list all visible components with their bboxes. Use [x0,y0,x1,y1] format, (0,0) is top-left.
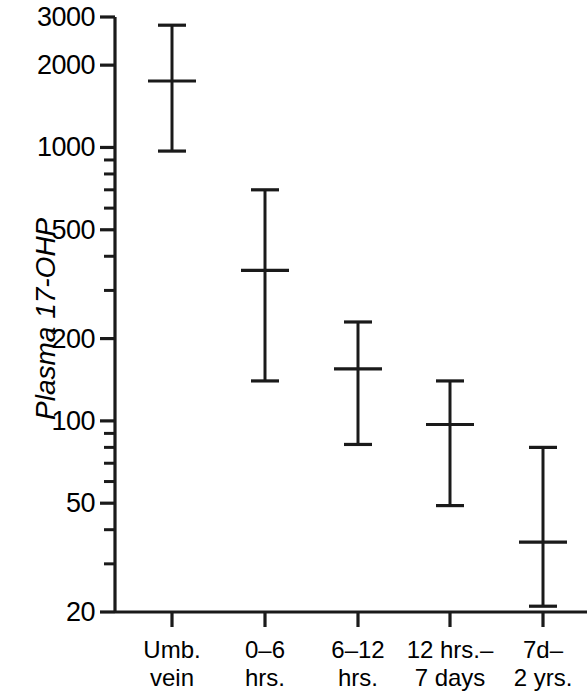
error-bar-point [241,190,289,381]
error-bar-point [148,25,196,151]
y-axis-tick-label: 1000 [37,134,95,161]
error-bar-point [334,322,382,444]
y-axis-tick-label: 50 [66,490,95,517]
y-axis-tick-label: 20 [66,599,95,626]
error-bar-point [426,381,474,506]
x-axis-tick-label-line2: 2 yrs. [483,664,587,692]
y-axis-tick-label: 3000 [37,4,95,31]
x-axis-tick-label: 7d–2 yrs. [483,636,587,693]
y-axis-tick-label: 100 [51,408,95,435]
x-axis-tick-label-line1: 0–6 [245,636,285,663]
y-axis-title: Plasma 17-OHP [30,218,62,420]
error-bar-point [519,447,567,606]
x-axis-tick-label-line1: 7d– [523,636,563,663]
x-axis-tick-label-line1: 6–12 [331,636,384,663]
y-axis-tick-label: 2000 [37,52,95,79]
data-series [148,25,567,606]
x-axis-tick-label-line1: Umb. [143,636,200,663]
y-axis-tick-label: 200 [51,326,95,353]
y-axis-tick-label: 500 [51,217,95,244]
x-axis-tick-label-line1: 12 hrs.– [407,636,494,663]
